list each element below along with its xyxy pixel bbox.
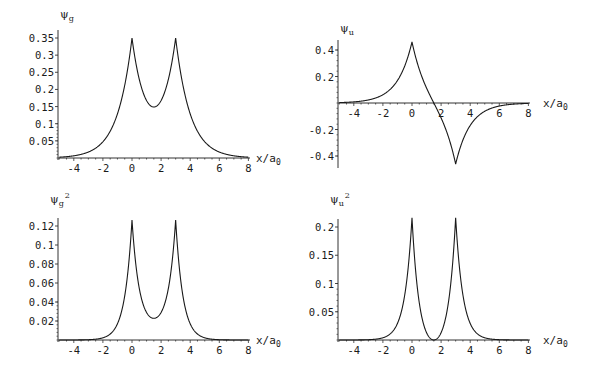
x-axis-label: x/a0	[256, 152, 281, 167]
x-tick-label: -2	[97, 344, 110, 356]
y-tick-label: 0.25	[29, 66, 54, 78]
x-tick-label: -4	[67, 344, 80, 356]
x-tick-label: 6	[216, 344, 222, 356]
x-tick-label: 2	[158, 162, 164, 174]
y-tick-label: 0.15	[309, 249, 334, 261]
x-axis-label: x/a0	[256, 334, 281, 349]
plot-psi-g: -4-2024680.050.10.150.20.250.30.35ψgx/a0	[29, 8, 281, 174]
x-tick-label: 0	[129, 344, 135, 356]
y-tick-label: 0.02	[29, 315, 54, 327]
y-axis-label: ψu	[340, 22, 354, 37]
x-tick-label: 0	[129, 162, 135, 174]
y-tick-label: 0.3	[35, 49, 54, 61]
x-tick-label: 2	[158, 344, 164, 356]
x-tick-label: 4	[187, 162, 193, 174]
x-axis-label: x/a0	[543, 334, 568, 349]
plot-psi-u: -4-202468-0.4-0.20.20.4ψux/a0	[309, 22, 568, 168]
x-tick-label: -4	[347, 344, 360, 356]
x-tick-label: 8	[245, 162, 251, 174]
y-tick-label: 0.08	[29, 258, 54, 270]
y-tick-label: 0.05	[309, 306, 334, 318]
x-tick-label: 4	[187, 344, 193, 356]
x-tick-label: 6	[496, 344, 502, 356]
x-axis-label: x/a0	[543, 97, 568, 112]
y-tick-label: -0.2	[309, 124, 334, 136]
x-tick-label: -4	[67, 162, 80, 174]
x-tick-label: 8	[245, 344, 251, 356]
y-tick-label: 0.15	[29, 101, 54, 113]
y-tick-label: 0.04	[29, 296, 54, 308]
x-tick-label: 6	[496, 107, 502, 119]
x-tick-label: 4	[467, 107, 473, 119]
figure: -4-2024680.050.10.150.20.250.30.35ψgx/a0…	[0, 0, 596, 381]
x-tick-label: 6	[216, 162, 222, 174]
x-tick-label: -4	[347, 107, 360, 119]
y-tick-label: 0.4	[315, 44, 334, 56]
x-tick-label: -2	[97, 162, 110, 174]
y-tick-label: 0.2	[315, 71, 334, 83]
y-axis-label: ψg	[60, 8, 74, 23]
y-tick-label: 0.2	[315, 221, 334, 233]
x-tick-label: 8	[525, 344, 531, 356]
plot-psi-u-squared: -4-2024680.050.10.150.2ψu2x/a0	[309, 191, 568, 356]
y-tick-label: 0.35	[29, 32, 54, 44]
curve	[59, 38, 248, 157]
x-tick-label: 2	[438, 344, 444, 356]
x-tick-label: 8	[525, 107, 531, 119]
y-axis-label: ψu2	[330, 191, 350, 208]
y-tick-label: -0.4	[309, 150, 334, 162]
y-tick-label: 0.12	[29, 220, 54, 232]
x-tick-label: 0	[409, 107, 415, 119]
y-axis-label: ψg2	[50, 191, 70, 208]
x-tick-label: -2	[377, 107, 390, 119]
plot-psi-g-squared: -4-2024680.020.040.060.080.10.12ψg2x/a0	[29, 191, 281, 356]
curve	[59, 220, 248, 340]
x-tick-label: 0	[409, 344, 415, 356]
x-tick-label: -2	[377, 344, 390, 356]
y-tick-label: 0.05	[29, 135, 54, 147]
curve	[339, 218, 528, 340]
y-tick-label: 0.2	[35, 83, 54, 95]
y-tick-label: 0.1	[315, 278, 334, 290]
y-tick-label: 0.1	[35, 118, 54, 130]
x-tick-label: 4	[467, 344, 473, 356]
y-tick-label: 0.06	[29, 277, 54, 289]
y-tick-label: 0.1	[35, 239, 54, 251]
